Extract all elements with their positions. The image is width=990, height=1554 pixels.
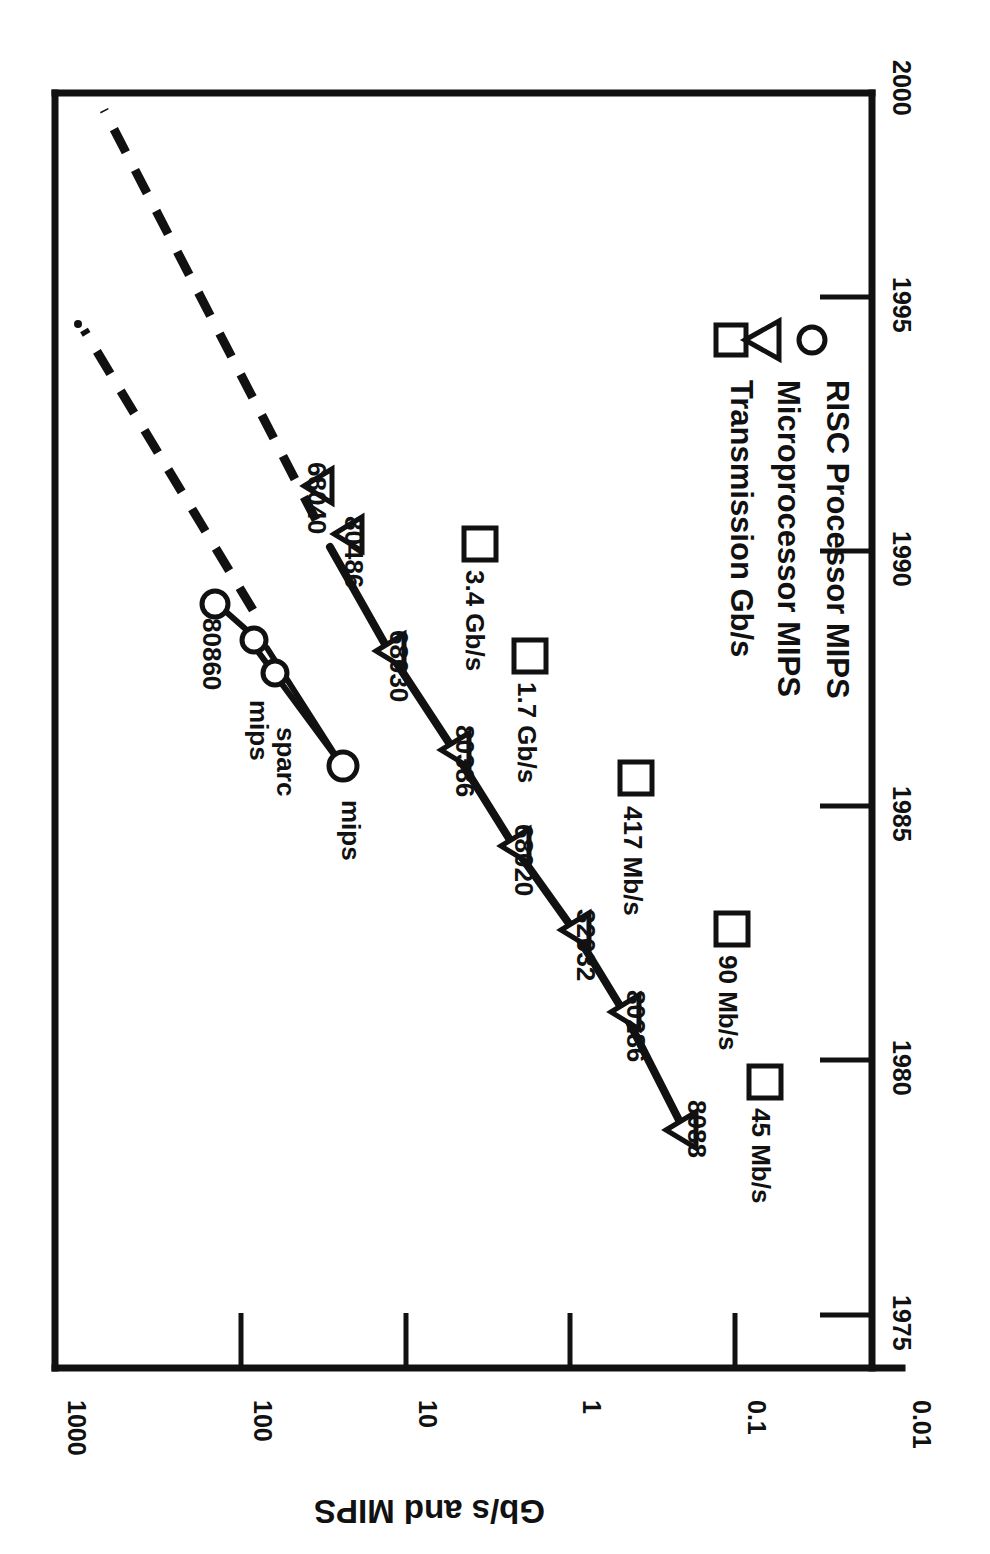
marker-square-1p7gbs [514, 640, 546, 672]
value-axis-ticks [241, 1313, 735, 1368]
legend: Transmission Gb/s Microprocessor MIPS RI… [716, 321, 855, 699]
marker-circle-80860 [202, 591, 228, 617]
point-label-8088: 8088 [682, 1100, 712, 1158]
marker-circle-sparc [263, 661, 287, 685]
value-tick-label-10: 10 [414, 1400, 442, 1428]
point-label-80486: 80486 [339, 516, 369, 588]
value-tick-label-0p01: 0.01 [908, 1400, 936, 1449]
year-tick-label-1985: 1985 [888, 786, 916, 842]
point-label-80286: 80286 [621, 990, 651, 1062]
legend-label-transmission: Transmission Gb/s [724, 380, 759, 657]
legend-triangle-icon [745, 321, 779, 359]
value-tick-label-0p1: 0.1 [743, 1400, 771, 1435]
year-tick-label-1980: 1980 [888, 1040, 916, 1096]
value-tick-label-1: 1 [578, 1400, 606, 1414]
value-axis-tick-labels: 1000 100 10 1 0.1 0.01 [63, 1400, 936, 1456]
point-label-3p4gbs: 3.4 Gb/s [460, 570, 490, 671]
marker-circle-mips-top [242, 628, 266, 652]
legend-label-microprocessor: Microprocessor MIPS [771, 380, 806, 697]
point-label-68040: 68040 [302, 462, 332, 534]
semilog-chart-figure: 1000 100 10 1 0.1 0.01 Gb/s and MIPS 197… [0, 0, 990, 1554]
point-label-90mbs: 90 Mb/s [713, 955, 743, 1050]
year-axis-tick-labels: 1975 1980 1985 1990 1995 2000 [888, 60, 916, 1351]
legend-circle-icon [799, 327, 825, 353]
year-tick-label-1995: 1995 [888, 277, 916, 333]
point-label-80860: 80860 [197, 618, 227, 690]
chart-page: 1000 100 10 1 0.1 0.01 Gb/s and MIPS 197… [0, 0, 990, 1554]
legend-label-risc: RISC Processor MIPS [820, 380, 855, 699]
point-label-80386: 80386 [450, 725, 480, 797]
year-tick-label-2000: 2000 [888, 60, 916, 116]
extrapolation-lines [74, 110, 316, 610]
extrapolation-line-microprocessor [104, 110, 316, 520]
point-label-32032: 32032 [571, 909, 601, 981]
marker-circle-mips-low [329, 752, 357, 780]
value-tick-label-100: 100 [249, 1400, 277, 1442]
point-label-68020: 68020 [509, 824, 539, 896]
point-label-sparc: sparc [271, 727, 301, 796]
marker-square-45mbs [749, 1066, 781, 1098]
extrapolation-line-risc [84, 330, 253, 610]
extrapolation-endpoint-dot [74, 320, 82, 328]
year-tick-label-1975: 1975 [888, 1295, 916, 1351]
point-label-mips-top: mips [244, 700, 274, 761]
point-label-68030: 68030 [384, 630, 414, 702]
point-label-45mbs: 45 Mb/s [746, 1108, 776, 1203]
value-tick-label-1000: 1000 [63, 1400, 91, 1456]
point-label-417mbs: 417 Mb/s [618, 806, 648, 916]
marker-square-417mbs [620, 762, 652, 794]
point-label-mips-low: mips [336, 800, 366, 861]
point-labels: 68040 80486 68030 80386 68020 32032 8028… [197, 462, 776, 1203]
marker-square-3p4gbs [464, 528, 496, 560]
value-axis-title: Gb/s and MIPS [314, 1493, 545, 1530]
year-tick-label-1990: 1990 [888, 531, 916, 587]
point-label-1p7gbs: 1.7 Gb/s [512, 682, 542, 783]
marker-square-90mbs [716, 913, 748, 945]
